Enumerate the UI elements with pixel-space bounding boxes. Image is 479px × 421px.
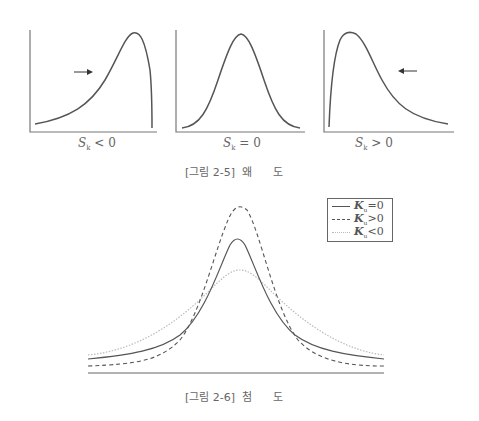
curve-platykurtic: [88, 270, 384, 355]
legend-var: K: [354, 199, 364, 212]
curve-symmetric: [182, 34, 300, 128]
legend: Ku=0 Ku>0 Ku<0: [327, 198, 393, 242]
legend-rel: =0: [367, 199, 383, 212]
solid-line-icon: [332, 206, 350, 207]
arrow-left-icon: [398, 68, 417, 74]
label-var: S: [355, 136, 363, 150]
legend-item-platykurtic: Ku<0: [332, 226, 392, 239]
caption-figure-2-6: [그림 2-6] 첨 도: [185, 388, 283, 404]
curve-mesokurtic: [88, 239, 384, 359]
panel-positive-skew: [324, 30, 454, 132]
legend-rel: <0: [367, 225, 383, 238]
label-rel: < 0: [90, 136, 115, 150]
curve-negative-skew: [35, 33, 152, 128]
axes: [30, 30, 157, 132]
legend-label: Ku<0: [354, 225, 384, 239]
label-positive-skew: Sk > 0: [355, 136, 393, 152]
curve-positive-skew: [329, 32, 448, 127]
label-rel: = 0: [235, 136, 260, 150]
axes: [176, 30, 305, 132]
legend-var: K: [354, 212, 364, 225]
label-negative-skew: Sk < 0: [78, 136, 116, 152]
legend-rel: >0: [367, 212, 383, 225]
arrow-right-icon: [74, 69, 93, 75]
skewness-figure: [0, 0, 479, 421]
label-var: S: [78, 136, 86, 150]
axes: [324, 30, 454, 132]
label-symmetric: Sk = 0: [223, 136, 261, 152]
panel-symmetric: [176, 30, 305, 132]
dashed-line-icon: [332, 219, 350, 220]
legend-var: K: [354, 225, 364, 238]
label-rel: > 0: [367, 136, 392, 150]
caption-figure-2-5: [그림 2-5] 왜 도: [185, 163, 283, 179]
dotted-line-icon: [332, 232, 350, 233]
panel-negative-skew: [30, 30, 157, 132]
label-var: S: [223, 136, 231, 150]
